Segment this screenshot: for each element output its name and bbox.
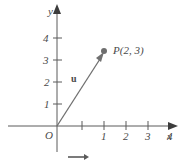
x-tick-label-1: 1 xyxy=(101,131,107,142)
vector-u-shaft xyxy=(57,59,100,126)
figure-canvas xyxy=(0,0,181,161)
y-tick-label-1: 1 xyxy=(44,99,50,110)
y-axis-arrowhead xyxy=(53,4,61,14)
x-tick-label-4: 4 xyxy=(167,131,173,142)
point-p-dot xyxy=(101,48,107,54)
y-tick-label-4: 4 xyxy=(43,33,49,44)
coordinate-plane-figure: y x O 1 2 3 4 1 2 3 4 u P(2, 3) xyxy=(0,0,181,161)
y-tick-label-2: 2 xyxy=(44,77,50,88)
x-tick-label-3: 3 xyxy=(145,131,151,142)
y-tick-label-3: 3 xyxy=(43,55,49,66)
origin-label: O xyxy=(45,130,53,141)
y-axis-label: y xyxy=(48,6,53,17)
x-axis-arrowhead xyxy=(168,122,178,130)
vector-u-label: u xyxy=(71,74,77,84)
overbar-arrow-glyph xyxy=(68,154,89,160)
point-p-label: P(2, 3) xyxy=(113,45,144,56)
x-tick-label-2: 2 xyxy=(123,131,129,142)
